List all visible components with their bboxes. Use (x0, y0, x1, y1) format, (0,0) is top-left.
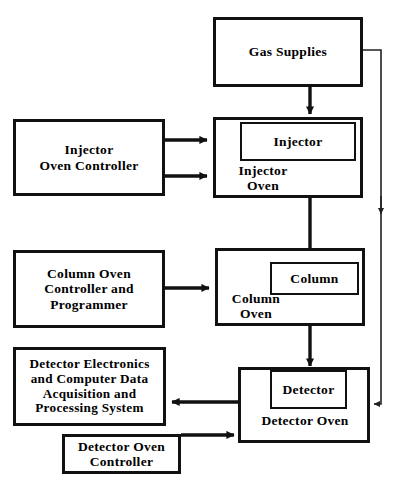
node-injector-oven-label: Injector Oven (216, 163, 310, 193)
node-injector-oven-controller[interactable]: Injector Oven Controller (13, 119, 165, 196)
node-detector[interactable]: Detector (270, 370, 347, 409)
node-injector[interactable]: Injector (240, 122, 356, 161)
node-detector-oven-controller[interactable]: Detector Oven Controller (62, 434, 181, 474)
diagram-canvas: Gas Supplies Injector Oven Injector Inje… (0, 0, 397, 488)
edge-gas-supplies-to-detector-oven (363, 50, 381, 404)
node-detector-electronics[interactable]: Detector Electronics and Computer Data A… (13, 347, 166, 426)
node-detector-oven-label: Detector Oven (246, 413, 364, 428)
node-column-oven-controller[interactable]: Column Oven Controller and Programmer (13, 250, 165, 328)
node-gas-supplies[interactable]: Gas Supplies (213, 17, 363, 87)
node-column-oven-label: Column Oven (219, 291, 293, 321)
